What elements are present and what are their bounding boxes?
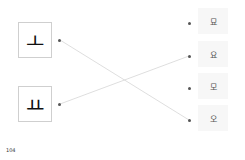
right-item-label: 묘 <box>210 16 217 27</box>
right-connector-dot[interactable] <box>188 87 191 90</box>
right-connector-dot[interactable] <box>188 119 191 122</box>
left-connector-dot[interactable] <box>58 39 61 42</box>
right-item-yo[interactable]: 요 <box>198 41 228 67</box>
left-item-yo[interactable]: ㅛ <box>18 86 52 122</box>
connection-line-yo <box>60 56 189 104</box>
right-connector-dot[interactable] <box>188 22 191 25</box>
right-item-o[interactable]: 오 <box>198 105 228 131</box>
right-item-myo[interactable]: 묘 <box>198 8 228 34</box>
left-item-label: ㅛ <box>26 90 44 119</box>
right-connector-dot[interactable] <box>188 55 191 58</box>
page-number: 104 <box>6 147 16 153</box>
left-item-o[interactable]: ㅗ <box>18 22 52 58</box>
right-item-label: 오 <box>210 113 217 124</box>
left-item-label: ㅗ <box>26 26 44 55</box>
left-connector-dot[interactable] <box>58 103 61 106</box>
right-item-mo[interactable]: 모 <box>198 73 228 99</box>
right-item-label: 요 <box>210 49 217 60</box>
right-item-label: 모 <box>210 81 217 92</box>
